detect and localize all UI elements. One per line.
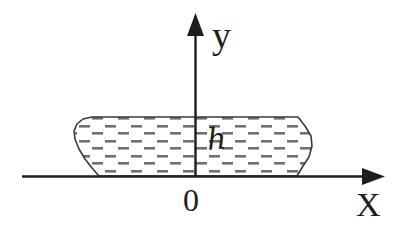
slab-height-label: h xyxy=(206,123,227,154)
y-axis-label: y xyxy=(212,16,231,54)
x-axis-label: X xyxy=(356,188,381,222)
diagram-svg xyxy=(0,0,399,233)
y-axis-arrow-icon xyxy=(187,13,204,36)
x-axis-arrow-icon xyxy=(362,168,385,185)
origin-label: 0 xyxy=(183,184,199,216)
figure-canvas: y X 0 h xyxy=(0,0,399,233)
hatched-slab-region xyxy=(74,117,312,176)
